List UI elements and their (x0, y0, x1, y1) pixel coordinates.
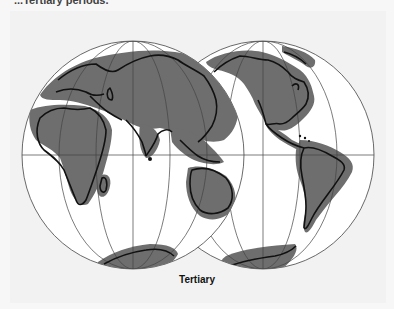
figure-caption: Tertiary (0, 274, 394, 285)
paleogeographic-map (0, 0, 394, 309)
sri-lanka-island (148, 157, 152, 161)
